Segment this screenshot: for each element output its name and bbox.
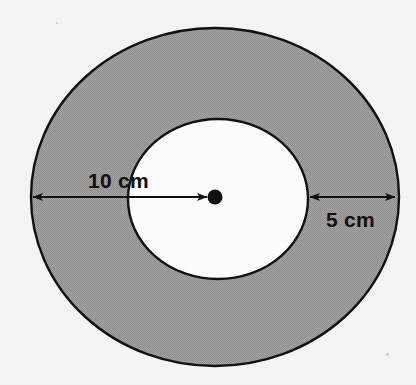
figure-root: 10 cm 5 cm [0,0,416,385]
paper-speck [386,353,389,356]
annulus-diagram: 10 cm 5 cm [0,0,416,385]
radius-dimension-label: 10 cm [88,169,149,192]
center-point-dot [208,190,223,205]
ring-width-dimension-label: 5 cm [326,208,375,231]
paper-speck [56,22,58,24]
